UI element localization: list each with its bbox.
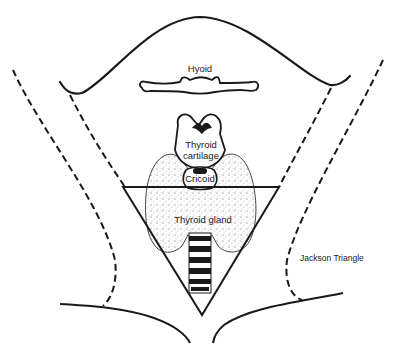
label-thyroid-gland: Thyroid gland (174, 214, 232, 225)
left-inner-dashed-border (70, 95, 125, 187)
label-thyroid-cartilage-1: Thyroid (185, 139, 217, 150)
neck-anatomy-diagram: Hyoid Thyroid cartilage Cricoid Thyroid … (0, 0, 395, 347)
left-outer-dashed-border (13, 70, 116, 306)
label-thyroid-cartilage-2: cartilage (183, 150, 219, 161)
hyoid-bone (140, 77, 258, 93)
right-outer-dashed-border (286, 60, 383, 300)
label-jackson-triangle: Jackson Triangle (300, 253, 364, 263)
label-cricoid: Cricoid (185, 173, 215, 184)
label-hyoid: Hyoid (188, 63, 212, 74)
trachea (189, 233, 211, 293)
left-clavicle-line (60, 304, 190, 343)
right-clavicle-line (213, 293, 343, 343)
right-inner-dashed-border (279, 88, 331, 187)
